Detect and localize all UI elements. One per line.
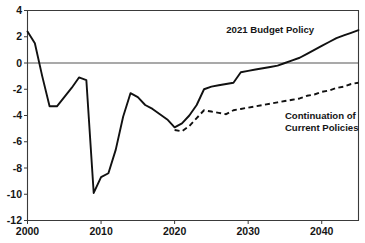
y-axis-tick-label: -2: [13, 83, 22, 95]
y-axis-tick-label: 2: [16, 30, 22, 42]
line-chart: 420-2-4-6-8-10-12 20002010202020302040 2…: [0, 0, 365, 243]
y-axis-tick-label: -4: [13, 109, 22, 121]
y-axis-tick-label: -10: [7, 188, 22, 200]
series-annotation-label: 2021 Budget Policy: [226, 24, 315, 35]
y-axis-tick-label: 0: [16, 57, 22, 69]
y-axis-tick-label: -8: [13, 162, 22, 174]
x-axis-tick-label: 2040: [310, 225, 334, 237]
y-axis-tick-label: -6: [13, 135, 22, 147]
chart-figure: 420-2-4-6-8-10-12 20002010202020302040 2…: [0, 0, 365, 243]
x-axis-tick-label: 2020: [163, 225, 187, 237]
x-axis-tick-label: 2030: [236, 225, 260, 237]
series-annotation-label: Current Policies: [285, 122, 359, 133]
x-axis-tick-label: 2010: [89, 225, 113, 237]
series-annotation-label: Continuation of: [285, 110, 357, 121]
y-axis-tick-label: 4: [16, 4, 22, 16]
x-axis-tick-label: 2000: [16, 225, 40, 237]
